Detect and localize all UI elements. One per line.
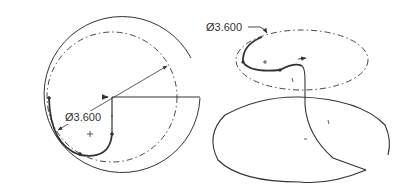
left-view [44, 17, 200, 173]
lower-ellipse-profile [213, 97, 390, 183]
cad-sketch-diagram: Ø3.600 Ø3.600 [0, 0, 409, 196]
right-diameter-label: Ø3.600 [206, 21, 242, 33]
sketch-point [242, 61, 244, 63]
sketch-point [279, 69, 281, 71]
direction-arrow [298, 58, 306, 59]
leader-line [248, 27, 267, 33]
left-diameter-label: Ø3.600 [65, 111, 101, 123]
tick-mark [328, 120, 329, 124]
helix-path-curve [49, 98, 112, 156]
sketch-point [79, 153, 82, 156]
sketch-point [48, 97, 51, 100]
sweep-path-curve [302, 66, 366, 170]
helix-path-curve [243, 37, 302, 71]
tick-mark [292, 78, 293, 82]
right-view [213, 27, 390, 183]
sketch-point [111, 133, 114, 136]
